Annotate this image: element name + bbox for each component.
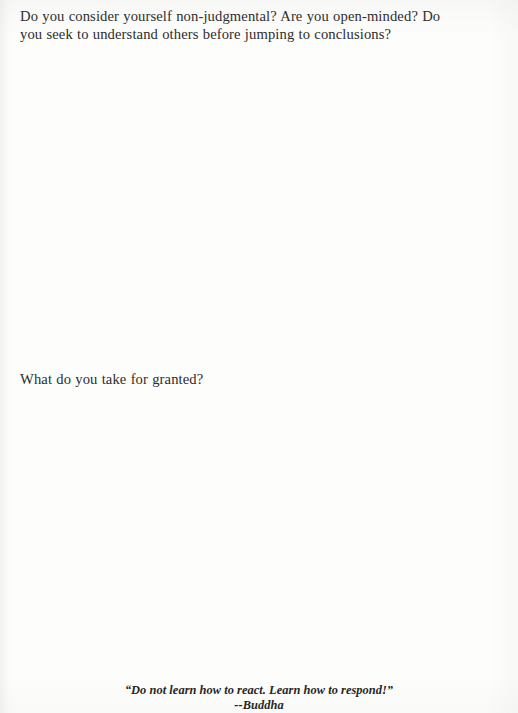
answer-writing-area-1[interactable] xyxy=(20,50,498,366)
journal-page: Do you consider yourself non-judgmental?… xyxy=(0,0,518,713)
footer-quote-text: “Do not learn how to react. Learn how to… xyxy=(0,683,518,698)
footer-quote-block: “Do not learn how to react. Learn how to… xyxy=(0,683,518,712)
footer-quote-attribution: --Buddha xyxy=(0,698,518,713)
answer-writing-area-2[interactable] xyxy=(20,392,498,674)
reflection-prompt-take-for-granted: What do you take for granted? xyxy=(20,370,420,388)
reflection-prompt-non-judgmental: Do you consider yourself non-judgmental?… xyxy=(20,7,456,44)
scan-gutter-shadow xyxy=(0,0,16,713)
